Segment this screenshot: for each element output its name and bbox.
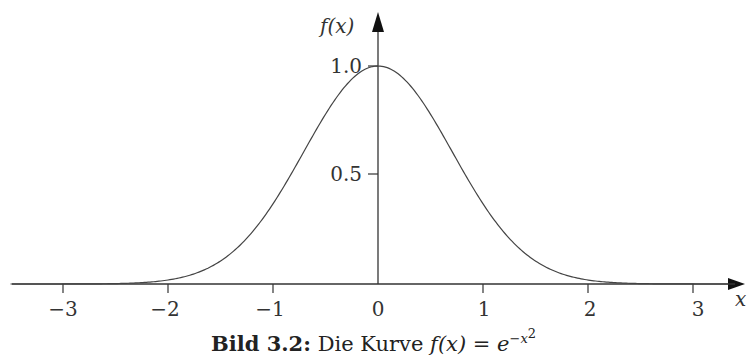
caption-label: Bild 3.2: — [211, 331, 311, 356]
x-tick-label: −3 — [48, 297, 77, 321]
caption-text: Die Kurve — [318, 332, 424, 356]
caption-formula: f(x) = e — [430, 332, 509, 356]
x-tick-label: 1 — [478, 297, 491, 321]
x-tick-label: 0 — [372, 297, 385, 321]
y-tick-label: 0.5 — [330, 162, 362, 186]
x-tick-label: 3 — [692, 297, 705, 321]
x-tick-label: −2 — [150, 297, 179, 321]
gaussian-curve — [11, 66, 736, 284]
figure-caption: Bild 3.2: Die Kurve f(x) = e−x2 — [0, 326, 747, 356]
x-ticks — [63, 284, 693, 293]
x-tick-label: 2 — [584, 297, 597, 321]
y-ticks — [368, 66, 378, 174]
x-tick-label: −1 — [255, 297, 284, 321]
caption-exponent: −x2 — [510, 331, 537, 346]
y-axis-arrow-icon — [372, 12, 384, 32]
y-axis-label: f(x) — [318, 14, 354, 38]
x-axis-label: x — [735, 287, 746, 311]
